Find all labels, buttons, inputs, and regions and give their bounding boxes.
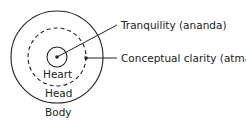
clarity-label: Conceptual clarity (atma) (121, 53, 246, 64)
tranquility-label: Tranquility (ananda) (121, 20, 227, 31)
tranquility-leader-line (57, 25, 117, 57)
body-label: Body (45, 107, 72, 118)
heart-label: Heart (43, 69, 72, 80)
head-label: Head (45, 88, 72, 99)
